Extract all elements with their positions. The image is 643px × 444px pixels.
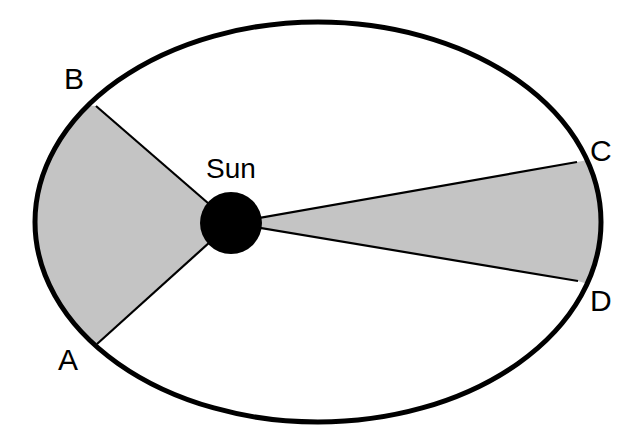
point-label-b: B [64,64,84,94]
swept-area-cd [231,150,640,300]
swept-area-ab [20,100,231,350]
kepler-diagram [0,0,643,444]
sun-icon [200,192,262,254]
point-label-d: D [590,286,612,316]
point-label-a: A [58,345,78,375]
point-label-c: C [590,136,612,166]
sun-label: Sun [206,155,256,183]
